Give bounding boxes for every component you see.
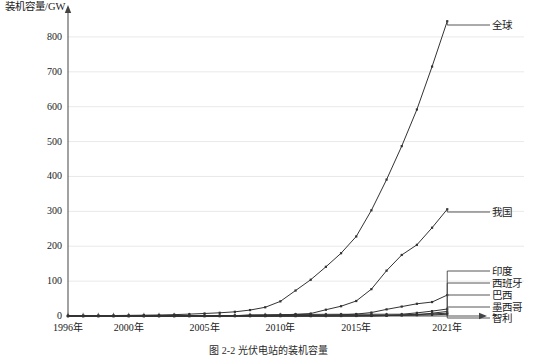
series-marker <box>416 108 418 110</box>
x-tick-2015: 2015年 <box>341 323 371 333</box>
leader-line-全球 <box>447 21 490 25</box>
gridlines <box>68 37 524 281</box>
y-tick-700: 700 <box>30 67 62 77</box>
series-label-墨西哥: 墨西哥 <box>492 302 522 313</box>
series-marker <box>431 314 433 316</box>
series-marker <box>188 315 190 317</box>
x-tick-2021: 2021年 <box>432 323 462 333</box>
series-marker <box>355 315 357 317</box>
series-marker <box>310 315 312 317</box>
series-marker <box>355 235 357 237</box>
series-marker <box>82 315 84 317</box>
leader-line-我国 <box>447 209 490 212</box>
series-marker <box>431 301 433 303</box>
series-marker <box>401 254 403 256</box>
series-marker <box>370 314 372 316</box>
series-marker <box>219 315 221 317</box>
series-marker <box>128 315 130 317</box>
y-tick-200: 200 <box>30 241 62 251</box>
series-marker <box>416 244 418 246</box>
series-marker <box>234 315 236 317</box>
series-marker <box>264 315 266 317</box>
series-marker <box>112 315 114 317</box>
series-marker <box>325 266 327 268</box>
figure-caption: 图 2-2 光伏电站的装机容量 <box>0 345 537 356</box>
series-marker <box>340 305 342 307</box>
series-marker <box>401 305 403 307</box>
series-marker <box>401 145 403 147</box>
series-marker <box>370 209 372 211</box>
series-marker <box>279 315 281 317</box>
series-marker <box>385 308 387 310</box>
series-marker <box>310 279 312 281</box>
y-tick-100: 100 <box>30 276 62 286</box>
leader-line-巴西 <box>447 295 490 311</box>
leader-line-墨西哥 <box>447 307 490 313</box>
series-marker <box>325 309 327 311</box>
series-marker <box>431 310 433 312</box>
series-marker <box>234 311 236 313</box>
series-marker <box>143 315 145 317</box>
x-tick-2000: 2000年 <box>114 323 144 333</box>
series-marker <box>355 300 357 302</box>
series-label-印度: 印度 <box>492 266 512 277</box>
y-tick-400: 400 <box>30 171 62 181</box>
series-marker <box>97 315 99 317</box>
series-line-我国 <box>68 209 447 316</box>
series-marker <box>416 314 418 316</box>
series-line-印度 <box>68 295 447 316</box>
series-marker <box>279 300 281 302</box>
series-label-智利: 智利 <box>492 313 512 324</box>
series-marker <box>219 312 221 314</box>
y-tick-500: 500 <box>30 137 62 147</box>
data-series <box>67 20 448 317</box>
series-marker <box>294 315 296 317</box>
series-marker <box>203 312 205 314</box>
x-tick-2010: 2010年 <box>265 323 295 333</box>
series-marker <box>340 315 342 317</box>
series-label-西班牙: 西班牙 <box>492 278 522 289</box>
series-marker <box>158 315 160 317</box>
label-leader-lines <box>447 21 490 318</box>
series-marker <box>249 309 251 311</box>
y-tick-0: 0 <box>30 311 62 321</box>
axes <box>65 5 487 319</box>
series-marker <box>385 179 387 181</box>
y-tick-800: 800 <box>30 32 62 42</box>
series-marker <box>431 65 433 67</box>
series-marker <box>264 306 266 308</box>
series-marker <box>67 315 69 317</box>
leader-line-西班牙 <box>447 283 490 309</box>
x-tick-1996: 1996年 <box>53 323 83 333</box>
y-tick-600: 600 <box>30 102 62 112</box>
series-line-全球 <box>68 21 447 316</box>
series-marker <box>249 315 251 317</box>
series-marker <box>401 314 403 316</box>
series-marker <box>385 270 387 272</box>
series-label-全球: 全球 <box>492 20 512 31</box>
series-marker <box>325 315 327 317</box>
series-marker <box>385 314 387 316</box>
series-label-巴西: 巴西 <box>492 290 512 301</box>
series-marker <box>370 288 372 290</box>
series-marker <box>431 227 433 229</box>
x-tick-2005: 2005年 <box>190 323 220 333</box>
series-marker <box>294 289 296 291</box>
series-marker <box>173 315 175 317</box>
series-label-我国: 我国 <box>492 207 512 218</box>
series-marker <box>203 315 205 317</box>
series-marker <box>416 303 418 305</box>
series-marker <box>340 252 342 254</box>
y-tick-300: 300 <box>30 206 62 216</box>
